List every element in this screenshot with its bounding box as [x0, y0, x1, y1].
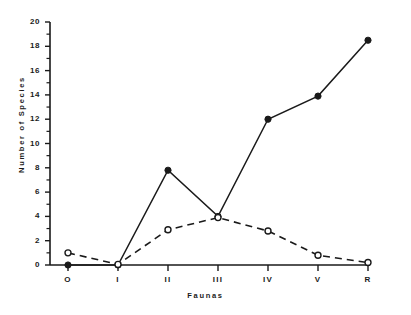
- data-point-marker: [315, 93, 321, 99]
- data-point-marker: [365, 37, 371, 43]
- x-tick-label: II: [148, 276, 188, 284]
- x-tick-label: R: [348, 276, 388, 284]
- x-tick-label: O: [48, 276, 88, 284]
- axis-layer: [45, 22, 370, 271]
- data-point-marker: [165, 167, 171, 173]
- y-tick-label: 0: [16, 261, 40, 269]
- data-point-marker: [265, 228, 271, 234]
- data-point-marker: [165, 227, 171, 233]
- series-layer: [65, 37, 371, 268]
- data-point-marker: [265, 116, 271, 122]
- data-point-marker: [315, 252, 321, 258]
- data-point-marker: [215, 215, 221, 221]
- x-tick-label: IV: [248, 276, 288, 284]
- series-line: [68, 40, 368, 265]
- data-point-marker: [115, 261, 121, 267]
- data-point-marker: [65, 250, 71, 256]
- chart-figure: 02468101214161820 OIIIIIIIVVR Number of …: [0, 0, 411, 315]
- x-tick-label: I: [98, 276, 138, 284]
- data-point-marker: [365, 260, 371, 266]
- data-point-marker: [65, 262, 71, 268]
- y-tick-label: 18: [16, 42, 40, 50]
- y-axis-title: Number of Species: [17, 60, 26, 190]
- series-line: [68, 218, 368, 265]
- y-tick-label: 20: [16, 18, 40, 26]
- x-axis-title: Faunas: [0, 291, 411, 300]
- y-tick-label: 2: [16, 237, 40, 245]
- plot-area: [0, 0, 411, 315]
- x-tick-label: III: [198, 276, 238, 284]
- x-tick-label: V: [298, 276, 338, 284]
- y-tick-label: 4: [16, 212, 40, 220]
